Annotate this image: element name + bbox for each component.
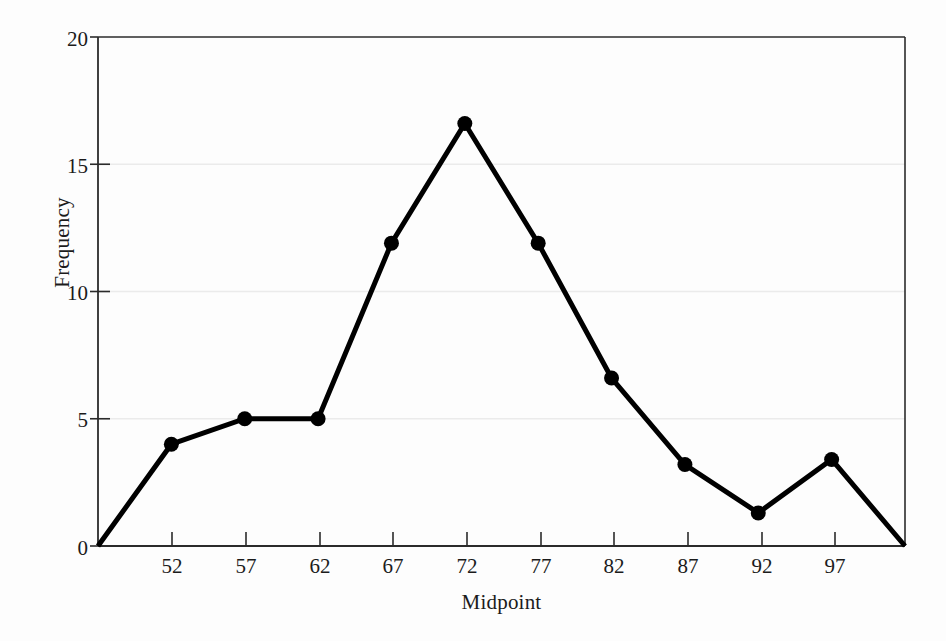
x-axis-tick-labels: 52 57 62 67 72 77 82 87 92 97 <box>0 0 946 641</box>
x-tick-label-92: 92 <box>732 556 792 577</box>
x-tick-label-52: 52 <box>142 556 202 577</box>
x-tick-label-87: 87 <box>658 556 718 577</box>
x-tick-label-97: 97 <box>805 556 865 577</box>
frequency-polygon-chart: Frequency 20 15 10 5 0 52 57 62 67 72 77… <box>0 0 946 641</box>
x-tick-label-57: 57 <box>216 556 276 577</box>
x-tick-label-62: 62 <box>290 556 350 577</box>
x-tick-label-67: 67 <box>363 556 423 577</box>
x-tick-label-77: 77 <box>511 556 571 577</box>
x-tick-label-82: 82 <box>584 556 644 577</box>
x-tick-label-72: 72 <box>437 556 497 577</box>
x-axis-title: Midpoint <box>98 590 905 615</box>
